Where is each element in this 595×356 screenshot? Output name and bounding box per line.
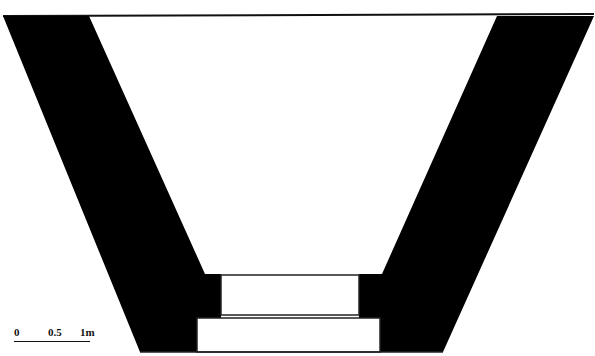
upper-step-block xyxy=(221,275,359,315)
upper-block-left-fill xyxy=(205,274,221,318)
top-rim-line xyxy=(3,14,594,16)
section-drawing xyxy=(0,0,595,356)
right-wall xyxy=(359,16,594,352)
scale-tick-0: 0 xyxy=(14,326,20,338)
scale-bar: 0 0.5 1m xyxy=(14,326,134,346)
scale-line xyxy=(14,341,90,342)
scale-tick-0-5: 0.5 xyxy=(48,326,62,338)
cross-section-diagram: 0 0.5 1m xyxy=(0,0,595,356)
lower-step-block xyxy=(197,318,380,352)
upper-block-right-fill xyxy=(359,274,383,318)
scale-tick-1m: 1m xyxy=(80,326,95,338)
left-wall xyxy=(3,16,221,352)
